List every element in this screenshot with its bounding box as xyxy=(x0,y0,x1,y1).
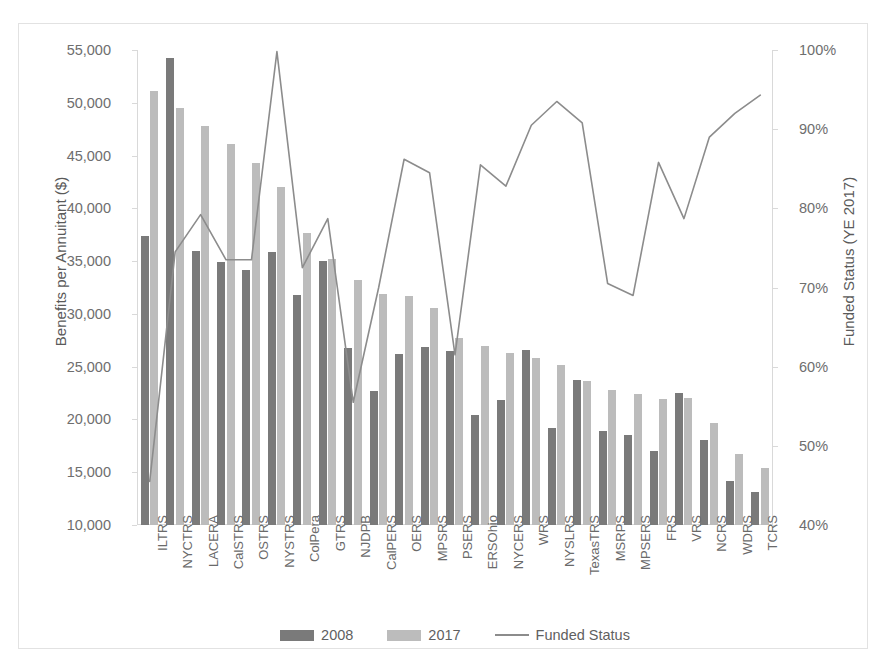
x-axis-label: TCRS xyxy=(765,515,780,625)
y-axis-tickmark-right xyxy=(773,288,778,289)
x-axis-label: FRS xyxy=(664,515,679,625)
x-axis-label: CalSTRS xyxy=(231,515,246,625)
x-axis-label-text: OSTRS xyxy=(256,515,271,625)
chart-legend: 2008 2017 Funded Status xyxy=(137,620,773,650)
x-axis-label: OSTRS xyxy=(256,515,271,625)
x-axis-label: LACERA xyxy=(206,515,221,625)
x-axis-label-text: GTRS xyxy=(333,515,348,625)
x-axis-label: MPSERS xyxy=(638,515,653,625)
x-axis-label-text: CalPERS xyxy=(384,515,399,625)
x-axis-label-text: NYSTRS xyxy=(282,515,297,625)
legend-label-2008: 2008 xyxy=(321,627,353,643)
x-axis-label: ERSOhio xyxy=(485,515,500,625)
x-axis-label-text: NYCERS xyxy=(511,515,526,625)
x-axis-label: NYSLRS xyxy=(562,515,577,625)
y-axis-tickmark-right xyxy=(773,50,778,51)
y-axis-tick-label-left: 10,000 xyxy=(25,517,111,533)
plot-inner: 55,00050,00045,00040,00035,00030,00025,0… xyxy=(137,50,773,525)
x-axis-label: VRS xyxy=(689,515,704,625)
chart-frame: Benefits per Annuitant ($) Funded Status… xyxy=(18,23,868,649)
x-axis-label-text: PSERS xyxy=(460,515,475,625)
x-axis-label-text: WDRS xyxy=(740,515,755,625)
x-axis-label: NJDPB xyxy=(358,515,373,625)
y-axis-title-left-text: Benefits per Annuitant ($) xyxy=(53,177,70,346)
x-axis-label-text: TCRS xyxy=(765,515,780,625)
x-axis-label: NYCTRS xyxy=(180,515,195,625)
x-axis-label-text: WRS xyxy=(536,515,551,625)
x-axis-label: TexasTRS xyxy=(587,515,602,625)
x-axis-label-text: FRS xyxy=(664,515,679,625)
x-axis-label-text: NYCTRS xyxy=(180,515,195,625)
x-axis-label: GTRS xyxy=(333,515,348,625)
x-axis-label: CalPERS xyxy=(384,515,399,625)
x-axis-label: NYSTRS xyxy=(282,515,297,625)
x-axis-label: PSERS xyxy=(460,515,475,625)
x-axis-label-text: ILTRS xyxy=(155,515,170,625)
legend-swatch-funded-status xyxy=(495,634,529,636)
x-axis-label: OERS xyxy=(409,515,424,625)
funded-status-polyline xyxy=(150,52,761,482)
y-axis-tickmark-right xyxy=(773,129,778,130)
y-axis-title-right-text: Funded Status (YE 2017) xyxy=(841,177,858,346)
x-axis-label-text: LACERA xyxy=(206,515,221,625)
x-axis-label: WRS xyxy=(536,515,551,625)
legend-swatch-2017 xyxy=(387,630,421,641)
plot-area: 55,00050,00045,00040,00035,00030,00025,0… xyxy=(137,50,773,525)
y-axis-tickmark-left xyxy=(132,525,137,526)
x-axis-label-text: MPSRS xyxy=(435,515,450,625)
x-axis-label: ColPera xyxy=(307,515,322,625)
legend-label-2017: 2017 xyxy=(428,627,460,643)
y-axis-title-right: Funded Status (YE 2017) xyxy=(837,24,861,499)
legend-swatch-2008 xyxy=(280,630,314,641)
x-axis-label: ILTRS xyxy=(155,515,170,625)
x-axis-label-text: NCRS xyxy=(714,515,729,625)
legend-item-funded-status: Funded Status xyxy=(495,627,630,643)
x-axis-label-text: TexasTRS xyxy=(587,515,602,625)
x-axis-label: MSRPS xyxy=(613,515,628,625)
x-axis-labels: ILTRSNYCTRSLACERACalSTRSOSTRSNYSTRSColPe… xyxy=(137,529,773,629)
chart-page: Benefits per Annuitant ($) Funded Status… xyxy=(0,0,886,672)
y-axis-tickmark-right xyxy=(773,367,778,368)
x-axis-label-text: ERSOhio xyxy=(485,515,500,625)
y-axis-tick-label-right: 40% xyxy=(799,517,869,533)
y-axis-title-left: Benefits per Annuitant ($) xyxy=(49,24,73,499)
x-axis-label-text: VRS xyxy=(689,515,704,625)
legend-item-2017: 2017 xyxy=(387,627,460,643)
funded-status-line xyxy=(137,50,773,525)
y-axis-tickmark-right xyxy=(773,446,778,447)
legend-item-2008: 2008 xyxy=(280,627,353,643)
x-axis-label: NCRS xyxy=(714,515,729,625)
legend-label-funded-status: Funded Status xyxy=(536,627,630,643)
x-axis-label-text: NYSLRS xyxy=(562,515,577,625)
x-axis-label-text: CalSTRS xyxy=(231,515,246,625)
x-axis-label-text: ColPera xyxy=(307,515,322,625)
x-axis-label-text: NJDPB xyxy=(358,515,373,625)
x-axis-label: NYCERS xyxy=(511,515,526,625)
x-axis-label-text: MPSERS xyxy=(638,515,653,625)
x-axis-label: WDRS xyxy=(740,515,755,625)
x-axis-label-text: MSRPS xyxy=(613,515,628,625)
y-axis-tickmark-right xyxy=(773,208,778,209)
x-axis-label-text: OERS xyxy=(409,515,424,625)
x-axis-label: MPSRS xyxy=(435,515,450,625)
